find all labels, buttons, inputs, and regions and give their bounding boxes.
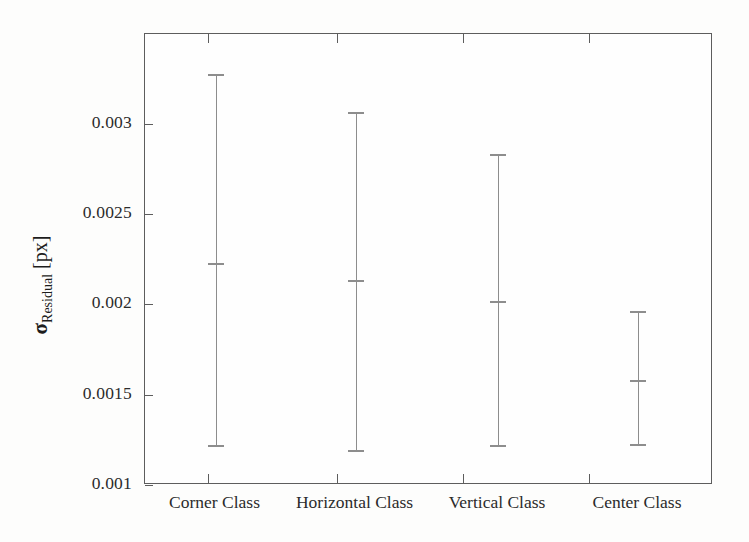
errorbar-stem — [638, 312, 639, 445]
y-axis-tick-label: 0.001 — [92, 473, 132, 494]
y-axis-tick-label: 0.0015 — [83, 383, 132, 404]
x-axis-tick — [463, 474, 464, 483]
y-axis-title-subscript: Residual — [40, 274, 55, 323]
errorbar-stem — [216, 75, 217, 446]
x-axis-tick-label: Center Class — [593, 492, 682, 513]
x-axis-tick — [589, 474, 590, 483]
x-axis-tick-top — [463, 34, 464, 43]
y-axis-tick — [145, 124, 153, 125]
errorbar-cap-lower — [490, 445, 506, 447]
chart-figure: σResidual [px] 0.0030.00250.0020.00150.0… — [0, 0, 749, 542]
x-axis-tick-top — [337, 34, 338, 43]
x-axis-tick-top — [589, 34, 590, 43]
x-axis-tick-label: Vertical Class — [449, 492, 546, 513]
y-axis-tick — [145, 304, 153, 305]
y-axis-tick-label: 0.002 — [92, 292, 132, 313]
errorbar-cap-lower — [348, 450, 364, 452]
errorbar-cap-lower — [208, 445, 224, 447]
errorbar-cap-upper — [208, 74, 224, 76]
errorbar-cap-upper — [348, 112, 364, 114]
y-axis-tick-label: 0.003 — [92, 112, 132, 133]
errorbar-cap-lower — [630, 444, 646, 446]
y-axis-tick-label: 0.0025 — [83, 202, 132, 223]
plot-area — [144, 33, 712, 484]
x-axis-tick — [337, 474, 338, 483]
y-axis-tick — [145, 485, 153, 486]
x-axis-tick-label: Corner Class — [169, 492, 260, 513]
errorbar-cap-upper — [630, 311, 646, 313]
x-axis-tick — [208, 474, 209, 483]
x-axis-tick-top — [208, 34, 209, 43]
errorbar-mean-marker — [630, 380, 646, 382]
errorbar-mean-marker — [348, 280, 364, 282]
errorbar-cap-upper — [490, 154, 506, 156]
x-axis-tick-label: Horizontal Class — [296, 492, 413, 513]
errorbar-mean-marker — [208, 263, 224, 265]
y-axis-tick — [145, 395, 153, 396]
errorbar-mean-marker — [490, 301, 506, 303]
y-axis-title: σResidual [px] — [28, 236, 56, 335]
y-axis-unit: [px] — [29, 236, 51, 269]
sigma-symbol: σ — [28, 323, 52, 334]
y-axis-tick — [145, 214, 153, 215]
